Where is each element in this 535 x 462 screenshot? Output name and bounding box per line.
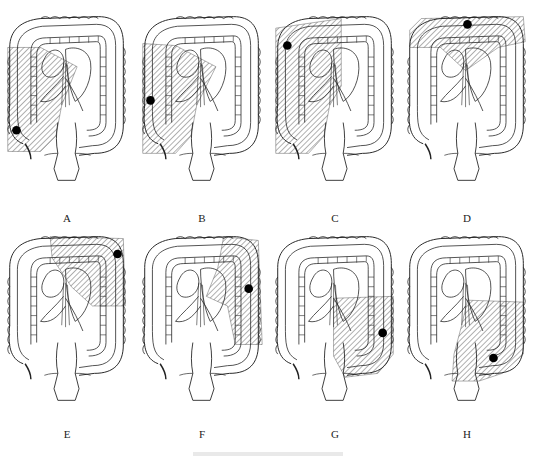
panel-f <box>137 228 267 418</box>
tumor-marker <box>146 96 155 105</box>
resection-area <box>206 237 262 345</box>
colon-diagram-c <box>270 8 400 188</box>
tumor-marker <box>463 20 472 29</box>
figure-caption <box>0 448 535 458</box>
caption-faint-text <box>193 452 343 456</box>
colon-diagram-h <box>402 228 532 408</box>
panel-a <box>2 8 132 198</box>
tumor-marker <box>283 41 292 50</box>
panel-label-c: C <box>270 212 400 224</box>
panel-d <box>402 8 532 198</box>
panel-label-d: D <box>402 212 532 224</box>
colon-diagram-b <box>137 8 267 188</box>
colon-diagram-a <box>2 8 132 188</box>
colon-diagram-f <box>137 228 267 408</box>
colon-diagram-e <box>2 228 132 408</box>
panel-e <box>2 228 132 418</box>
panel-g <box>270 228 400 418</box>
panel-label-f: F <box>137 428 267 440</box>
panel-label-b: B <box>137 212 267 224</box>
tumor-marker <box>12 126 21 135</box>
tumor-marker <box>113 250 122 259</box>
panel-label-e: E <box>2 428 132 440</box>
tumor-marker <box>378 329 387 338</box>
panel-label-h: H <box>402 428 532 440</box>
colon-diagram-g <box>270 228 400 408</box>
panel-label-a: A <box>2 212 132 224</box>
resection-area <box>50 237 125 306</box>
panel-label-g: G <box>270 428 400 440</box>
panel-h <box>402 228 532 418</box>
panel-b <box>137 8 267 198</box>
tumor-marker <box>489 354 498 363</box>
panel-c <box>270 8 400 198</box>
tumor-marker <box>244 284 253 293</box>
colon-diagram-d <box>402 8 532 188</box>
